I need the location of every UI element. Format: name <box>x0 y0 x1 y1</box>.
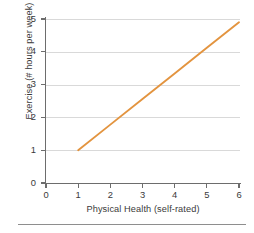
x-tick-4 <box>174 184 175 188</box>
x-tick-label-4: 4 <box>164 189 186 200</box>
y-tick-2 <box>41 117 45 118</box>
x-axis-title: Physical Health (self-rated) <box>46 204 240 214</box>
data-series-line <box>46 19 240 183</box>
x-tick-label-0: 0 <box>35 189 57 200</box>
y-tick-label-3: 3 <box>14 78 36 89</box>
trend-line-path <box>78 22 239 150</box>
y-tick-0 <box>41 182 45 183</box>
x-tick-5 <box>206 184 207 188</box>
x-tick-label-3: 3 <box>132 189 154 200</box>
y-tick-4 <box>41 51 45 52</box>
x-tick-2 <box>110 184 111 188</box>
y-tick-label-5: 5 <box>14 13 36 24</box>
y-tick-3 <box>41 84 45 85</box>
y-tick-label-0: 0 <box>14 177 36 188</box>
y-tick-1 <box>41 150 45 151</box>
y-tick-label-1: 1 <box>14 144 36 155</box>
x-tick-label-6: 6 <box>228 189 250 200</box>
x-tick-0 <box>45 184 46 188</box>
x-tick-label-5: 5 <box>196 189 218 200</box>
x-tick-label-1: 1 <box>67 189 89 200</box>
y-tick-label-2: 2 <box>14 111 36 122</box>
x-tick-label-2: 2 <box>99 189 121 200</box>
y-tick-5 <box>41 18 45 19</box>
x-tick-6 <box>238 184 239 188</box>
chart-figure: Exercise (# hours per week) 012345 01234… <box>0 0 254 233</box>
y-tick-label-4: 4 <box>14 45 36 56</box>
y-axis-line <box>45 17 46 185</box>
bottom-divider <box>18 224 246 225</box>
x-tick-3 <box>142 184 143 188</box>
x-tick-1 <box>78 184 79 188</box>
plot-area <box>46 19 240 183</box>
